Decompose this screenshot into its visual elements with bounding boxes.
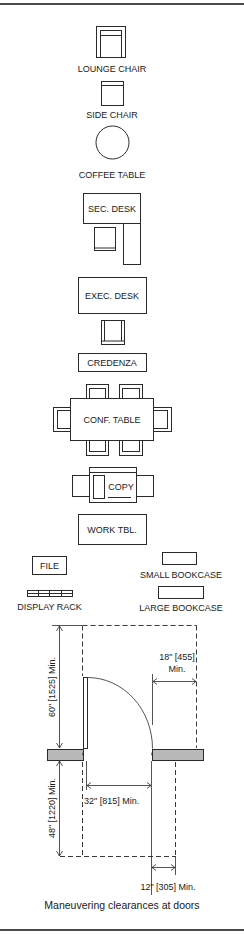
work-table-label: WORK TBL.: [87, 525, 136, 535]
dim-18-label: 18" [455]: [159, 652, 195, 662]
copier-symbol: COPY: [73, 468, 154, 503]
exec-desk-label: EXEC. DESK: [85, 291, 139, 301]
display-rack-symbol: DISPLAY RACK: [17, 591, 82, 613]
conference-table-symbol: CONF. TABLE: [54, 385, 172, 456]
coffee-table-symbol: COFFEE TABLE: [79, 126, 146, 180]
top-border: [0, 3, 244, 5]
side-chair-symbol: SIDE CHAIR: [86, 82, 138, 121]
wall-right: [153, 750, 204, 761]
small-bookcase-symbol: SMALL BOOKCASE: [140, 553, 222, 581]
desk-chair-symbol: [102, 321, 125, 345]
sec-desk-label: SEC. DESK: [88, 204, 136, 214]
diagram-caption: Maneuvering clearances at doors: [44, 899, 199, 911]
small-bookcase-label: SMALL BOOKCASE: [140, 570, 222, 580]
coffee-table-label: COFFEE TABLE: [79, 170, 146, 180]
lounge-chair-label: LOUNGE CHAIR: [78, 64, 147, 74]
large-bookcase-label: LARGE BOOKCASE: [139, 603, 223, 613]
credenza-label: CREDENZA: [87, 358, 137, 368]
dim-48-label: 48" [1220] Min.: [47, 778, 57, 838]
display-rack-label: DISPLAY RACK: [17, 602, 82, 612]
file-label: FILE: [40, 561, 59, 571]
executive-desk-symbol: EXEC. DESK: [79, 278, 147, 314]
dim-32-label: 32" [815] Min.: [84, 796, 139, 806]
door-clearance-diagram: 60" [1525] Min. 18" [455] Min. 32" [815]…: [44, 626, 203, 912]
door-swing-arc: [88, 678, 153, 749]
file-cabinet-symbol: FILE: [33, 557, 67, 575]
dim-18-min-label: Min.: [168, 664, 185, 674]
furniture-symbols-diagram: LOUNGE CHAIR SIDE CHAIR COFFEE TABLE SEC…: [0, 0, 244, 935]
lounge-chair-symbol: LOUNGE CHAIR: [78, 27, 147, 75]
conf-table-label: CONF. TABLE: [83, 415, 140, 425]
credenza-symbol: CREDENZA: [79, 354, 147, 372]
side-chair-label: SIDE CHAIR: [86, 110, 138, 120]
copy-label: COPY: [108, 482, 134, 492]
dim-12-label: 12" [305] Min.: [140, 882, 195, 892]
dim-60-label: 60" [1525] Min.: [47, 657, 57, 717]
door-leaf: [84, 678, 88, 749]
wall-left: [48, 750, 84, 761]
secretary-desk-symbol: SEC. DESK: [84, 194, 141, 265]
large-bookcase-symbol: LARGE BOOKCASE: [139, 587, 223, 614]
work-table-symbol: WORK TBL.: [79, 515, 147, 545]
bottom-border: [0, 929, 244, 931]
